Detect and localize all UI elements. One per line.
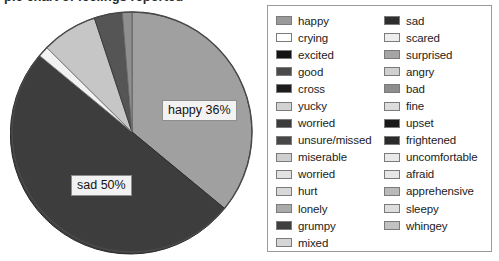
legend-label: mixed [298, 237, 328, 249]
legend-item-sleepy[interactable]: sleepy [384, 200, 488, 217]
legend-swatch-icon [384, 102, 400, 111]
legend-item-whingey[interactable]: whingey [384, 217, 488, 234]
pie-data-label-sad: sad 50% [71, 175, 132, 196]
legend-item-mixed[interactable]: mixed [276, 234, 380, 251]
legend-label: scared [406, 32, 440, 44]
legend-item-excited[interactable]: excited [276, 46, 380, 63]
legend-label: surprised [406, 49, 452, 61]
pie-chart: happy 36% sad 50% [10, 8, 254, 256]
legend-swatch-icon [384, 33, 400, 42]
legend-label: whingey [406, 220, 448, 232]
legend-swatch-icon [276, 50, 292, 59]
legend-label: apprehensive [406, 185, 474, 197]
pie-svg [10, 8, 254, 256]
legend-swatch-icon [276, 84, 292, 93]
legend-label: frightened [406, 134, 456, 146]
legend-label: bad [406, 83, 425, 95]
legend-box: happy crying excited good cross [267, 5, 492, 252]
legend-column-right: sad scared surprised angry bad [384, 12, 488, 234]
legend-label: afraid [406, 168, 434, 180]
legend-label: fine [406, 100, 424, 112]
legend-swatch-icon [276, 67, 292, 76]
legend-item-miserable[interactable]: miserable [276, 149, 380, 166]
legend-item-cross[interactable]: cross [276, 80, 380, 97]
legend-swatch-icon [276, 238, 292, 247]
legend-label: yucky [298, 100, 327, 112]
legend-label: worried [298, 168, 335, 180]
legend-swatch-icon [384, 204, 400, 213]
legend-item-unsure-missed[interactable]: unsure/missed [276, 132, 380, 149]
legend-label: lonely [298, 203, 327, 215]
legend-label: sleepy [406, 203, 439, 215]
legend-item-scared[interactable]: scared [384, 29, 488, 46]
legend-swatch-icon [384, 84, 400, 93]
legend-item-yucky[interactable]: yucky [276, 97, 380, 114]
legend-item-sad[interactable]: sad [384, 12, 488, 29]
legend-item-good[interactable]: good [276, 63, 380, 80]
legend-label: unsure/missed [298, 134, 371, 146]
legend-label: crying [298, 32, 328, 44]
legend-swatch-icon [384, 187, 400, 196]
legend-item-fine[interactable]: fine [384, 97, 488, 114]
legend-swatch-icon [276, 33, 292, 42]
legend-swatch-icon [276, 187, 292, 196]
legend-item-lonely[interactable]: lonely [276, 200, 380, 217]
legend-swatch-icon [384, 170, 400, 179]
legend-label: angry [406, 66, 434, 78]
legend-swatch-icon [276, 204, 292, 213]
legend-swatch-icon [276, 221, 292, 230]
page-title: pie chart of feelings reported [4, 0, 183, 4]
legend-item-afraid[interactable]: afraid [384, 166, 488, 183]
legend-label: worried [298, 117, 335, 129]
legend-swatch-icon [384, 221, 400, 230]
pie-data-label-happy: happy 36% [162, 100, 237, 121]
legend-item-surprised[interactable]: surprised [384, 46, 488, 63]
legend-label: hurt [298, 185, 317, 197]
legend-item-uncomfortable[interactable]: uncomfortable [384, 149, 488, 166]
pie-chart-figure: pie chart of feelings reported happy 36%… [0, 0, 499, 261]
legend-swatch-icon [276, 153, 292, 162]
legend-label: grumpy [298, 220, 336, 232]
legend-label: uncomfortable [406, 151, 478, 163]
legend-item-frightened[interactable]: frightened [384, 132, 488, 149]
legend-item-worried-1[interactable]: worried [276, 115, 380, 132]
legend-swatch-icon [384, 67, 400, 76]
legend-label: upset [406, 117, 434, 129]
legend-swatch-icon [276, 136, 292, 145]
legend-item-happy[interactable]: happy [276, 12, 380, 29]
legend-item-apprehensive[interactable]: apprehensive [384, 183, 488, 200]
legend-swatch-icon [384, 153, 400, 162]
legend-swatch-icon [276, 119, 292, 128]
legend-columns: happy crying excited good cross [268, 6, 491, 251]
legend-item-upset[interactable]: upset [384, 115, 488, 132]
legend-label: sad [406, 15, 424, 27]
legend-column-left: happy crying excited good cross [276, 12, 380, 251]
legend-label: excited [298, 49, 334, 61]
legend-swatch-icon [276, 102, 292, 111]
legend-swatch-icon [276, 16, 292, 25]
legend-item-hurt[interactable]: hurt [276, 183, 380, 200]
legend-item-angry[interactable]: angry [384, 63, 488, 80]
legend-label: miserable [298, 151, 347, 163]
legend-label: good [298, 66, 323, 78]
legend-swatch-icon [384, 119, 400, 128]
legend-item-grumpy[interactable]: grumpy [276, 217, 380, 234]
legend-item-worried-2[interactable]: worried [276, 166, 380, 183]
clipped-title-strip: pie chart of feelings reported [0, 0, 260, 5]
legend-swatch-icon [384, 16, 400, 25]
legend-label: cross [298, 83, 325, 95]
legend-item-bad[interactable]: bad [384, 80, 488, 97]
legend-swatch-icon [276, 170, 292, 179]
legend-label: happy [298, 15, 329, 27]
legend-swatch-icon [384, 136, 400, 145]
legend-swatch-icon [384, 50, 400, 59]
legend-item-crying[interactable]: crying [276, 29, 380, 46]
